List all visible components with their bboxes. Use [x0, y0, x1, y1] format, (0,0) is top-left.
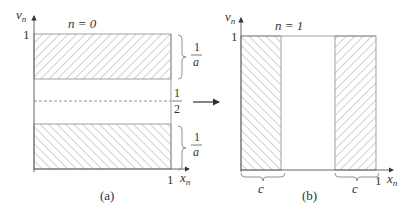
mid-fraction-den: 2	[174, 102, 180, 116]
panel-b: vn 1 n = 1 c c 1 xn (b)	[225, 9, 398, 203]
baker-map-diagram: vn 1 n = 0 1 a 1 2 1 a 1 xn (a) vn 1 n =…	[0, 0, 414, 214]
y-axis-label: vn	[225, 9, 236, 26]
panel-title: n = 1	[275, 18, 303, 33]
top-fraction-num: 1	[194, 40, 200, 54]
bottom-fraction-den: a	[193, 145, 199, 159]
left-band-label: c	[258, 181, 264, 196]
panel-a: vn 1 n = 0 1 a 1 2 1 a 1 xn (a)	[16, 7, 202, 203]
left-brace	[241, 173, 285, 181]
caption-b: (b)	[302, 188, 317, 203]
top-brace	[178, 35, 186, 79]
top-hatched-band	[34, 34, 171, 79]
bottom-brace	[178, 126, 186, 170]
bottom-hatched-band	[34, 124, 171, 169]
x-tick-1: 1	[167, 172, 174, 187]
x-axis-label: xn	[179, 170, 191, 187]
bottom-fraction-num: 1	[194, 130, 200, 144]
x-tick-1: 1	[375, 173, 382, 188]
y-tick-1: 1	[23, 27, 30, 42]
top-fraction-den: a	[193, 55, 199, 69]
y-axis-label: vn	[16, 7, 27, 24]
y-tick-1: 1	[231, 29, 238, 44]
right-brace	[335, 173, 379, 181]
x-axis-label: xn	[386, 171, 398, 188]
mid-fraction-num: 1	[174, 86, 180, 100]
caption-a: (a)	[100, 188, 114, 203]
right-band-label: c	[352, 181, 358, 196]
panel-title: n = 0	[68, 16, 97, 31]
left-hatched-band	[241, 36, 281, 170]
right-hatched-band	[335, 36, 376, 170]
